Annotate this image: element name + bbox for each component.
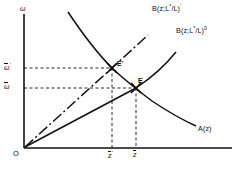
- y-tick-omega-bar: ω: [4, 83, 9, 90]
- b-prime-curve-label: B(z;L*/L)': [152, 4, 181, 13]
- x-tick-z-prime: z': [108, 151, 113, 159]
- b-prime-label-base: B(z;L: [152, 4, 169, 13]
- b-zero-curve-line: [25, 52, 176, 147]
- y-tick-omega-bar-base: ω: [4, 83, 9, 90]
- y-axis-label: ω: [20, 5, 25, 12]
- equilibrium-label-e: E: [138, 77, 143, 84]
- origin-label: O: [13, 150, 19, 158]
- b-zero-label-base: B(z;L: [176, 26, 193, 35]
- y-tick-omega-prime: ω': [4, 63, 10, 71]
- equilibrium-label-e-prime: E': [117, 60, 123, 67]
- x-tick-z-bar-base: z: [133, 151, 137, 158]
- y-tick-omega-prime-sup: ': [9, 62, 10, 68]
- x-tick-z-bar: z: [133, 151, 137, 158]
- equilibrium-diagram: ω ω' ω z' z O B(z;L*/L)' B(z;L*/L)0 A(z)…: [0, 0, 240, 171]
- marker-e: [131, 83, 141, 93]
- y-tick-omega-prime-base: ω: [4, 64, 9, 71]
- b-zero-label-sup: 0: [204, 25, 207, 31]
- x-tick-z-prime-base: z: [108, 152, 112, 159]
- a-curve-label: A(z): [198, 125, 212, 132]
- b-prime-label-sup: ': [180, 3, 181, 9]
- b-prime-label-mid: /L): [171, 4, 180, 13]
- b-zero-label-mid: /L): [195, 26, 204, 35]
- b-zero-curve-label: B(z;L*/L)0: [176, 26, 207, 35]
